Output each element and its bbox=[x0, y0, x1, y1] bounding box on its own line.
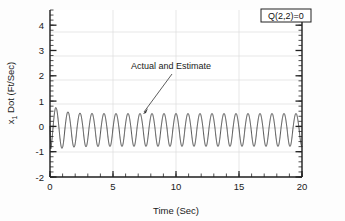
y-tick-label: -1 bbox=[36, 146, 44, 157]
y-axis-title-group: x1 Dot (Ft/Sec) bbox=[5, 62, 18, 125]
y-axis-title: x1 Dot (Ft/Sec) bbox=[5, 62, 18, 125]
x-tick-label: 0 bbox=[47, 181, 52, 192]
chart-canvas: 05101520-2-101234 Time (Sec) x1 Dot (Ft/… bbox=[0, 0, 345, 221]
x-tick-label: 15 bbox=[234, 181, 245, 192]
annotation-label: Actual and Estimate bbox=[131, 61, 211, 71]
y-tick-label: 1 bbox=[39, 96, 44, 107]
q-matrix-label-box: Q(2,2)=0 bbox=[261, 9, 311, 22]
y-axis-title-rest: Dot (Ft/Sec) bbox=[5, 62, 16, 116]
x-tick-label: 5 bbox=[110, 181, 115, 192]
y-tick-label: 4 bbox=[39, 20, 44, 31]
y-tick-label: -2 bbox=[36, 172, 44, 183]
y-tick-label: 0 bbox=[39, 121, 44, 132]
y-tick-label: 3 bbox=[39, 45, 44, 56]
x-tick-label: 10 bbox=[171, 181, 182, 192]
y-tick-label: 2 bbox=[39, 70, 44, 81]
figure-container: 05101520-2-101234 Time (Sec) x1 Dot (Ft/… bbox=[0, 0, 345, 221]
x-tick-label: 20 bbox=[297, 181, 308, 192]
q-matrix-label-text: Q(2,2)=0 bbox=[268, 11, 304, 21]
x-axis-title: Time (Sec) bbox=[153, 205, 199, 216]
